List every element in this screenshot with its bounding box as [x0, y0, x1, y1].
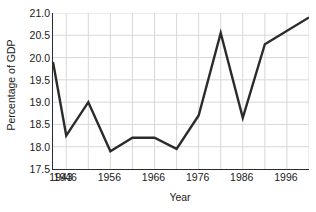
y-axis-title-text: Percentage of GDP	[5, 39, 17, 130]
x-tick-label: 1946	[54, 172, 77, 183]
y-tick-label: 18.5	[18, 119, 50, 130]
x-tick-label: 1976	[186, 172, 209, 183]
y-tick-label: 21.0	[18, 8, 50, 19]
data-series-line	[53, 13, 309, 169]
x-tick-label: 1986	[230, 172, 253, 183]
x-tick-label: 1996	[274, 172, 297, 183]
y-axis-tick-labels: 21.020.520.019.519.018.518.017.5	[18, 0, 50, 182]
y-tick-label: 20.0	[18, 53, 50, 64]
y-tick-label: 20.5	[18, 30, 50, 41]
x-axis-tick-labels: 1943194619561966197619861996	[0, 172, 316, 188]
x-tick-label: 1966	[142, 172, 165, 183]
y-tick-label: 18.0	[18, 142, 50, 153]
plot-area	[52, 13, 309, 170]
line-chart-figure: Percentage of GDP 21.020.520.019.519.018…	[0, 0, 316, 212]
y-tick-label: 19.5	[18, 75, 50, 86]
x-axis-title: Year	[52, 191, 308, 203]
y-tick-label: 19.0	[18, 97, 50, 108]
x-tick-label: 1956	[98, 172, 121, 183]
